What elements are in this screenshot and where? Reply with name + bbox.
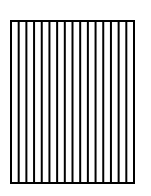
- vertical-stripe-lines: [19, 21, 127, 183]
- striped-rectangle-diagram: [0, 0, 151, 196]
- background: [0, 0, 151, 196]
